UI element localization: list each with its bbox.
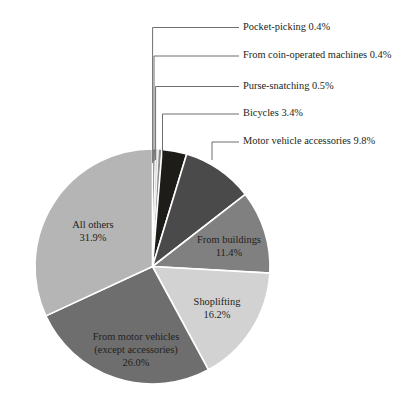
callout-label-bicycles: Bicycles 3.4% [243,107,303,118]
inside-label-all-others-name: All others [72,219,113,230]
leader-line-coin-operated [154,56,239,161]
callout-label-purse-snatching: Purse-snatching 0.5% [243,80,334,91]
callout-label-motor-vehicle-accessories: Motor vehicle accessories 9.8% [243,135,375,146]
inside-label-from-buildings-value: 11.4% [216,247,243,258]
pie-chart-canvas: Pocket-picking 0.4% From coin-operated m… [0,0,419,419]
callout-label-pocket-picking: Pocket-picking 0.4% [243,21,330,32]
inside-label-motor-vehicles-line1: From motor vehicles [93,331,180,342]
inside-label-motor-vehicles-line2: (except accessories) [94,344,177,356]
inside-label-shoplifting-value: 16.2% [204,309,231,320]
leader-line-motor-vehicle-accessories [212,142,239,160]
inside-label-from-buildings-name: From buildings [197,234,261,245]
leader-line-pocket-picking [153,28,239,164]
inside-label-motor-vehicles-value: 26.0% [123,357,150,368]
inside-label-all-others-value: 31.9% [80,232,107,243]
inside-label-shoplifting-name: Shoplifting [194,296,241,307]
callout-label-coin-operated: From coin-operated machines 0.4% [243,49,392,60]
pie-chart: Pocket-picking 0.4% From coin-operated m… [0,0,419,419]
callout-labels: Pocket-picking 0.4% From coin-operated m… [243,21,392,147]
leader-line-purse-snatching [156,87,239,161]
leader-lines [153,28,239,164]
